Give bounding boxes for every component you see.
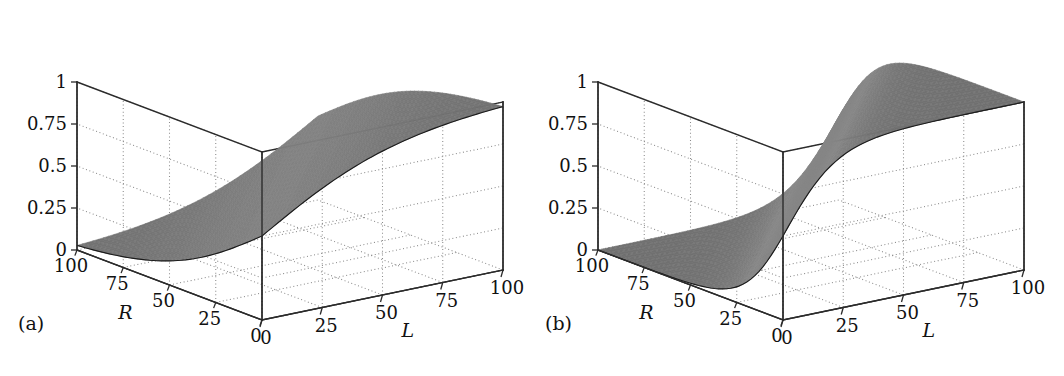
l-tick-label: 100 bbox=[490, 277, 524, 298]
z-tick-label: 1 bbox=[56, 71, 67, 92]
l-tick-mark bbox=[841, 308, 843, 315]
l-tick-label: 25 bbox=[836, 315, 859, 336]
grid-floor-line bbox=[839, 200, 1024, 270]
r-axis-title: R bbox=[117, 301, 132, 323]
surface-plot-panel-b: 00.250.50.75102550751000255075100RL (b) bbox=[521, 0, 1053, 376]
r-tick-label: 50 bbox=[673, 290, 696, 311]
figure-root: 00.250.50.75102550751000255075100RL (a) … bbox=[0, 0, 1064, 376]
surface-plot-svg-b: 00.250.50.75102550751000255075100RL bbox=[521, 0, 1064, 376]
l-axis-title: L bbox=[400, 319, 414, 341]
r-tick-label: 25 bbox=[198, 308, 221, 329]
l-tick-mark bbox=[1022, 270, 1024, 277]
l-tick-label: 50 bbox=[375, 302, 398, 323]
panel-label-a: (a) bbox=[18, 312, 44, 334]
z-tick-label: 0.25 bbox=[548, 197, 588, 218]
surface-mesh bbox=[598, 63, 1024, 289]
surface-mesh bbox=[77, 91, 503, 261]
z-tick-label: 0.25 bbox=[27, 197, 67, 218]
l-tick-label: 0 bbox=[260, 327, 271, 348]
l-tick-label: 25 bbox=[315, 315, 338, 336]
l-tick-label: 0 bbox=[781, 327, 792, 348]
r-tick-label: 100 bbox=[54, 255, 88, 276]
surface-plot-panel-a: 00.250.50.75102550751000255075100RL (a) bbox=[0, 0, 532, 376]
panel-label-b: (b) bbox=[545, 312, 572, 334]
z-tick-label: 0.5 bbox=[559, 155, 588, 176]
z-tick-label: 0.75 bbox=[548, 113, 588, 134]
l-tick-label: 50 bbox=[896, 302, 919, 323]
z-tick-label: 1 bbox=[577, 71, 588, 92]
z-tick-label: 0.5 bbox=[38, 155, 67, 176]
l-tick-mark bbox=[441, 283, 443, 290]
r-tick-label: 25 bbox=[719, 308, 742, 329]
l-tick-label: 100 bbox=[1011, 277, 1045, 298]
l-tick-label: 75 bbox=[956, 290, 979, 311]
grid-lines bbox=[598, 82, 1024, 320]
l-axis-title: L bbox=[921, 319, 935, 341]
l-tick-mark bbox=[962, 283, 964, 290]
r-axis-title: R bbox=[638, 301, 653, 323]
axis-frame-back bbox=[598, 82, 1024, 320]
grid-floor-line bbox=[216, 253, 457, 303]
z-tick-label: 0.75 bbox=[27, 113, 67, 134]
l-tick-mark bbox=[501, 270, 503, 277]
l-tick-mark bbox=[320, 308, 322, 315]
axis-frame-front bbox=[598, 82, 1024, 320]
r-tick-label: 75 bbox=[627, 273, 650, 294]
r-tick-label: 75 bbox=[106, 273, 129, 294]
r-tick-label: 100 bbox=[575, 255, 609, 276]
grid-wall-right-horizontal bbox=[262, 228, 503, 278]
grid-floor-line bbox=[318, 200, 503, 270]
grid-floor-line bbox=[737, 253, 978, 303]
surface-plot-svg-a: 00.250.50.75102550751000255075100RL bbox=[0, 0, 532, 376]
grid-wall-right-horizontal bbox=[783, 228, 1024, 278]
r-tick-label: 50 bbox=[152, 290, 175, 311]
l-tick-mark bbox=[381, 295, 383, 302]
l-tick-mark bbox=[902, 295, 904, 302]
l-tick-label: 75 bbox=[435, 290, 458, 311]
